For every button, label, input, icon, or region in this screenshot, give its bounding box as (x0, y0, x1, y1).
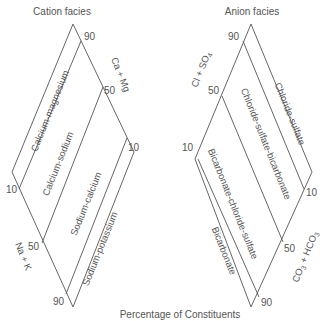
anion-tick-10-left: 10 (182, 142, 194, 153)
cation-tick-90: 90 (84, 31, 96, 42)
cation-tick-10-right: 10 (128, 142, 140, 153)
anion-tick-90: 90 (228, 31, 240, 42)
anion-tick-50-lower: 50 (284, 243, 296, 254)
cation-tick-50-upper: 50 (104, 85, 116, 96)
cation-facies-sodium-potassium: Sodium-potassium (80, 210, 120, 287)
cation-facies-calcium-sodium: Calcium-sodium (40, 130, 76, 197)
cation-facies-title: Cation facies (33, 6, 91, 17)
anion-tick-90-bottom: 90 (261, 297, 273, 308)
facies-diagram: Cation facies Anion facies 90 50 10 10 5… (0, 0, 326, 321)
anion-facies-chloride-sulfate: Chloride-sulfate (273, 81, 308, 147)
cation-tick-90-bottom: 90 (53, 296, 65, 307)
anion-axis-co3-hco3: CO3 + HCO3 (290, 229, 321, 284)
anion-facies-title: Anion facies (225, 6, 279, 17)
anion-axis-cl-so4: Cl + SO4 (189, 50, 214, 89)
cation-tick-10-left: 10 (6, 184, 18, 195)
anion-facies-bicarbonate: Bicarbonate (210, 225, 239, 276)
cation-facies-sodium-calcium: Sodium-calcium (68, 170, 104, 237)
anion-tick-50-upper: 50 (208, 85, 220, 96)
percentage-caption: Percentage of Constituents (120, 309, 241, 320)
cation-tick-50-lower: 50 (28, 241, 40, 252)
anion-facies-bicarbonate-chloride-sulfate: Bicarbonate-chloride-sulfate (206, 147, 261, 261)
anion-tick-10-right: 10 (306, 187, 318, 198)
